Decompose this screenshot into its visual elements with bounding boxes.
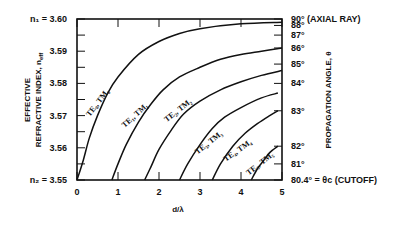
curve-mode-0: [77, 22, 282, 180]
plot-frame-rect: [77, 19, 282, 180]
y-axis-title-line2: REFRACTIVE INDEX, neff: [34, 52, 44, 147]
chart: n₂ = 3.553.563.573.583.59n₁ = 3.60 01234…: [0, 0, 400, 227]
y-tick-label: n₂ = 3.55: [30, 175, 67, 185]
y2-tick-label: 86°: [291, 43, 305, 53]
curve-label-5: TE₅, TM₅: [244, 150, 275, 177]
y-axis-title-main: REFRACTIVE INDEX, n: [34, 60, 43, 147]
curve-mode-3: [180, 93, 278, 180]
x-tick-label: 2: [156, 187, 161, 197]
x-tick-label: 3: [197, 187, 202, 197]
y2-tick-label: 84°: [291, 78, 305, 88]
y2-tick-label: 80.4° = θc (CUTOFF): [291, 175, 377, 185]
plot-frame: [77, 19, 282, 180]
y2-tick-label: 85°: [291, 59, 305, 69]
y2-tick-label: 81°: [291, 159, 305, 169]
x-tick-label: 0: [74, 187, 79, 197]
x-tick-label: 4: [238, 187, 243, 197]
y2-axis-title: PROPAGATION ANGLE, θ: [324, 51, 333, 148]
y2-tick-label: 82°: [291, 141, 305, 151]
y-axis-title-sub: eff: [38, 52, 44, 60]
x-axis-title: d/λ: [172, 205, 184, 214]
y-tick-label: 3.58: [49, 78, 67, 88]
x-tick-label: 5: [279, 187, 284, 197]
y-tick-label: n₁ = 3.60: [30, 14, 67, 24]
y2-tick-label: 83°: [291, 106, 305, 116]
y-tick-label: 3.56: [49, 143, 67, 153]
y2-tick-label: 87°: [291, 30, 305, 40]
y2-tick-label: 88°: [291, 20, 305, 30]
curves: [77, 22, 282, 180]
y-axis-title-line1: EFFECTIVE: [23, 77, 32, 122]
y-tick-label: 3.57: [49, 111, 67, 121]
y-tick-label: 3.59: [49, 46, 67, 56]
curve-label-1: TE₁, TM₁: [120, 101, 150, 130]
x-tick-label: 1: [115, 187, 120, 197]
